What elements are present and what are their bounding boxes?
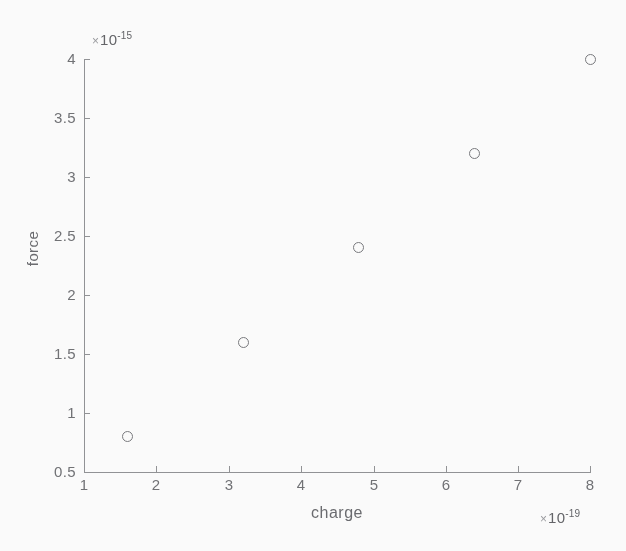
x-axis-line <box>84 472 591 473</box>
y-exponent-multiplier-symbol: × <box>92 34 99 48</box>
y-axis-tick-label: 3 <box>0 168 76 185</box>
x-axis-title: charge <box>237 504 437 522</box>
x-axis-tick <box>518 466 519 472</box>
y-axis-tick-label: 1.5 <box>0 345 76 362</box>
x-exponent-base: 10 <box>548 509 565 526</box>
x-axis-tick <box>590 466 591 472</box>
x-axis-tick-label: 3 <box>209 476 249 493</box>
y-axis-tick <box>84 413 90 414</box>
x-axis-tick-label: 7 <box>498 476 538 493</box>
y-axis-tick <box>84 295 90 296</box>
x-axis-tick-label: 1 <box>64 476 104 493</box>
y-exponent-superscript: -15 <box>117 30 132 41</box>
x-axis-tick-label: 4 <box>281 476 321 493</box>
data-point-marker <box>469 148 480 159</box>
x-axis-tick-label: 2 <box>136 476 176 493</box>
y-axis-tick <box>84 472 90 473</box>
y-axis-tick-label: 3.5 <box>0 109 76 126</box>
x-axis-tick <box>301 466 302 472</box>
y-axis-tick-label: 1 <box>0 404 76 421</box>
x-axis-tick <box>374 466 375 472</box>
x-axis-tick <box>156 466 157 472</box>
x-axis-tick <box>446 466 447 472</box>
y-axis-tick <box>84 59 90 60</box>
x-axis-tick-label: 8 <box>570 476 610 493</box>
y-axis-tick <box>84 236 90 237</box>
x-axis-exponent-label: ×10-19 <box>540 508 580 526</box>
y-axis-tick <box>84 118 90 119</box>
data-point-marker <box>585 54 596 65</box>
data-point-marker <box>353 242 364 253</box>
y-axis-tick-label: 4 <box>0 50 76 67</box>
data-point-marker <box>122 431 133 442</box>
x-axis-tick <box>229 466 230 472</box>
y-axis-tick <box>84 177 90 178</box>
data-point-marker <box>238 337 249 348</box>
y-axis-line <box>84 59 85 473</box>
y-axis-tick <box>84 354 90 355</box>
x-axis-tick-label: 5 <box>354 476 394 493</box>
y-axis-title: force <box>24 199 41 299</box>
x-axis-tick-label: 6 <box>426 476 466 493</box>
y-exponent-base: 10 <box>100 31 117 48</box>
x-exponent-multiplier-symbol: × <box>540 512 547 526</box>
x-axis-tick <box>84 466 85 472</box>
scatter-plot-figure: ×10-15 4 3.5 3 2.5 2 1.5 1 0.5 1 2 3 4 5… <box>0 0 626 551</box>
x-exponent-superscript: -19 <box>565 508 580 519</box>
y-axis-exponent-label: ×10-15 <box>92 30 132 48</box>
